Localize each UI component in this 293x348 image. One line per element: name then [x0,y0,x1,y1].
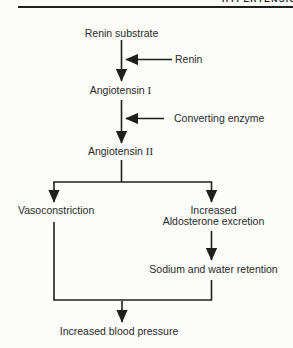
textbook-figure-page: HYPERTENSION Renin substrate Renin Angio… [0,0,293,348]
roman-numeral-two: II [146,145,153,157]
node-renin-substrate: Renin substrate [85,28,159,39]
merge-return-path [54,222,212,300]
roman-numeral-one: I [148,84,152,96]
node-increased-aldosterone: Increased Aldosterone excretion [154,205,274,227]
node-vasoconstriction: Vasoconstriction [18,205,94,216]
node-increased-blood-pressure: Increased blood pressure [60,326,179,337]
node-sodium-water-retention: Sodium and water retention [149,264,277,275]
node-angiotensin-ii: Angiotensin II [88,146,153,157]
flow-connectors [0,0,293,348]
edge-label-renin: Renin [175,54,202,65]
node-angiotensin-i: Angiotensin I [90,85,151,96]
edge-label-converting-enzyme: Converting enzyme [174,113,264,124]
